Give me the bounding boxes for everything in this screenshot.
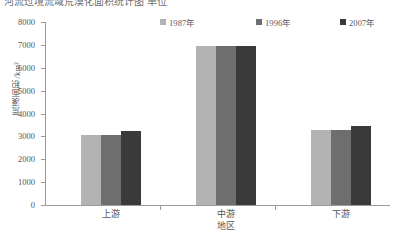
bar-中游-1996年 xyxy=(216,46,236,205)
y-tick-4000 xyxy=(41,114,45,115)
y-tick-label-3000: 3000 xyxy=(0,132,35,141)
bar-上游-1996年 xyxy=(101,135,121,205)
bar-上游-1987年 xyxy=(81,135,101,205)
bar-group-中游 xyxy=(196,22,256,205)
y-tick-label-5000: 5000 xyxy=(0,87,35,96)
x-category-label-下游: 下游 xyxy=(301,209,381,220)
x-axis-line xyxy=(45,205,390,206)
bar-下游-2007年 xyxy=(351,126,371,205)
y-tick-6000 xyxy=(41,68,45,69)
plot-area: 010002000300040005000600070008000 xyxy=(45,22,390,206)
x-axis-title: 地区 xyxy=(186,221,266,232)
y-tick-label-7000: 7000 xyxy=(0,41,35,50)
bar-group-上游 xyxy=(81,22,141,205)
y-tick-3000 xyxy=(41,136,45,137)
x-category-label-中游: 中游 xyxy=(186,209,266,220)
bar-group-下游 xyxy=(311,22,371,205)
y-tick-0 xyxy=(41,205,45,206)
bar-中游-2007年 xyxy=(236,46,256,205)
y-tick-label-2000: 2000 xyxy=(0,155,35,164)
bar-下游-1987年 xyxy=(311,130,331,205)
x-tick-1 xyxy=(160,206,161,210)
y-tick-8000 xyxy=(41,22,45,23)
y-tick-7000 xyxy=(41,45,45,46)
y-tick-label-4000: 4000 xyxy=(0,110,35,119)
y-tick-label-6000: 6000 xyxy=(0,64,35,73)
y-axis-line xyxy=(45,22,46,206)
bar-上游-2007年 xyxy=(121,131,141,205)
x-tick-2 xyxy=(275,206,276,210)
y-tick-2000 xyxy=(41,159,45,160)
bar-中游-1987年 xyxy=(196,46,216,205)
y-tick-1000 xyxy=(41,182,45,183)
bar-chart: 1987年 1996年 2007年 荒漠面积/km² 0100020003000… xyxy=(0,0,405,236)
x-category-label-上游: 上游 xyxy=(71,209,151,220)
y-tick-label-1000: 1000 xyxy=(0,178,35,187)
y-tick-label-8000: 8000 xyxy=(0,18,35,27)
y-tick-label-0: 0 xyxy=(0,201,35,210)
y-tick-5000 xyxy=(41,91,45,92)
bar-下游-1996年 xyxy=(331,130,351,205)
